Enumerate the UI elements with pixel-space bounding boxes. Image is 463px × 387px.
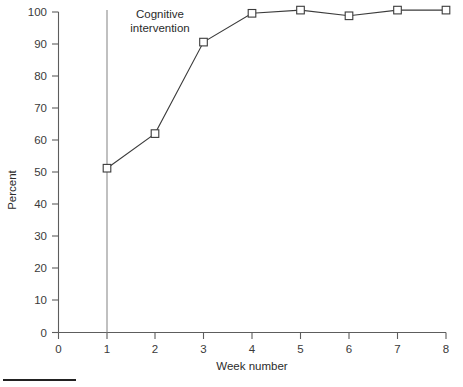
y-tick-label-50: 50 <box>34 166 47 178</box>
x-tick-label-0: 0 <box>55 343 61 355</box>
chart-canvas: 100 90 80 70 60 50 40 30 20 10 0 Percent <box>0 0 463 387</box>
x-tick-label-2: 2 <box>152 343 158 355</box>
data-point-week-2 <box>151 130 159 138</box>
data-point-week-4 <box>248 10 256 18</box>
data-point-week-3 <box>200 38 208 46</box>
x-tick-label-1: 1 <box>104 343 110 355</box>
x-tick-label-4: 4 <box>249 343 256 355</box>
y-tick-label-90: 90 <box>34 38 47 50</box>
y-tick-label-70: 70 <box>34 102 47 114</box>
y-tick-label-40: 40 <box>34 198 47 210</box>
y-tick-label-30: 30 <box>34 230 47 242</box>
y-tick-label-60: 60 <box>34 134 47 146</box>
annotation-line-2: intervention <box>130 22 189 34</box>
data-point-week-6 <box>345 12 353 20</box>
y-tick-label-80: 80 <box>34 70 47 82</box>
y-tick-label-0: 0 <box>41 327 47 339</box>
data-point-week-7 <box>394 6 402 14</box>
x-tick-label-8: 8 <box>443 343 449 355</box>
y-axis-title: Percent <box>6 169 18 209</box>
x-axis: 0 1 2 3 4 5 6 7 8 Week number <box>55 333 449 373</box>
x-axis-title: Week number <box>216 360 288 372</box>
y-axis: 100 90 80 70 60 50 40 30 20 10 0 Percent <box>6 6 59 339</box>
y-tick-label-20: 20 <box>34 262 47 274</box>
x-tick-label-6: 6 <box>346 343 352 355</box>
data-point-week-5 <box>297 6 305 14</box>
x-tick-label-5: 5 <box>297 343 303 355</box>
cognitive-intervention-annotation: Cognitive intervention <box>130 8 189 34</box>
data-point-week-1 <box>103 164 111 172</box>
y-tick-label-100: 100 <box>28 6 47 18</box>
y-tick-label-10: 10 <box>34 294 47 306</box>
x-tick-label-3: 3 <box>200 343 206 355</box>
x-tick-label-7: 7 <box>394 343 400 355</box>
line-chart-figure: 100 90 80 70 60 50 40 30 20 10 0 Percent <box>0 0 463 387</box>
data-point-week-8 <box>442 6 450 14</box>
annotation-line-1: Cognitive <box>136 8 184 20</box>
